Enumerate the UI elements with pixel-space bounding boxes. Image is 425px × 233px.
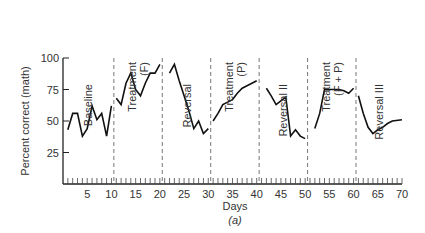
x-tick-label: 70 xyxy=(396,188,408,200)
phase-label-line: (F) xyxy=(138,62,150,76)
y-tick-label: 50 xyxy=(47,115,59,127)
phase-label-line: Treatment xyxy=(320,62,332,112)
x-tick-label: 50 xyxy=(299,188,311,200)
x-tick-label: 65 xyxy=(372,188,384,200)
x-tick-label: 10 xyxy=(105,188,117,200)
phase-label: Treatment(F) xyxy=(126,62,150,112)
phase-label-line: (P) xyxy=(235,62,247,77)
x-tick-label: 30 xyxy=(202,188,214,200)
y-tick-label: 100 xyxy=(41,52,59,64)
y-tick-label: 25 xyxy=(47,147,59,159)
phase-label: Reversal xyxy=(181,84,193,127)
phase-label: Treatment(F + P) xyxy=(320,62,344,112)
y-axis-title: Percent correct (math) xyxy=(19,66,31,175)
figure-caption: (a) xyxy=(228,214,242,226)
x-tick-label: 5 xyxy=(84,188,90,200)
phase-label-line: Treatment xyxy=(126,62,138,112)
x-tick-label: 35 xyxy=(226,188,238,200)
phase-label-line: Treatment xyxy=(223,62,235,112)
x-tick-label: 15 xyxy=(130,188,142,200)
x-axis-title: Days xyxy=(222,200,248,212)
phase-label: Reversal II xyxy=(277,84,289,137)
phase-label: Reversal III xyxy=(373,84,385,140)
phase-label: Baseline xyxy=(82,84,94,126)
x-tick-label: 25 xyxy=(178,188,190,200)
phase-label-line: (F + P) xyxy=(332,62,344,96)
single-subject-line-chart: 510152025303540455055606570255075100 Bas… xyxy=(0,0,425,233)
phase-label-line: Reversal III xyxy=(373,84,385,140)
phase-label-line: Reversal II xyxy=(277,84,289,137)
x-tick-label: 40 xyxy=(251,188,263,200)
phase-series-line xyxy=(213,81,257,121)
phase-label-line: Reversal xyxy=(181,84,193,127)
x-tick-label: 20 xyxy=(154,188,166,200)
x-tick-label: 45 xyxy=(275,188,287,200)
x-tick-label: 60 xyxy=(347,188,359,200)
y-tick-label: 75 xyxy=(47,84,59,96)
phase-label-line: Baseline xyxy=(82,84,94,126)
phase-labels: BaselineTreatment(F)ReversalTreatment(P)… xyxy=(82,62,385,140)
x-tick-label: 55 xyxy=(323,188,335,200)
